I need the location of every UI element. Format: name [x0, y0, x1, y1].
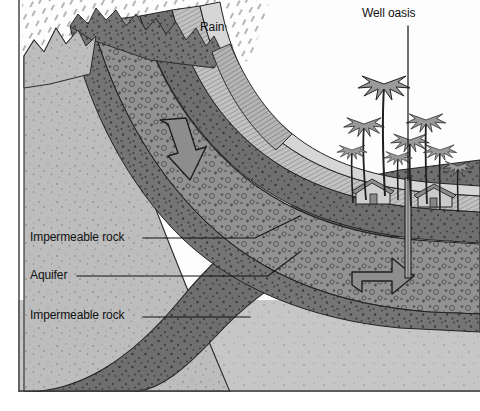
label-well-oasis: Well oasis — [362, 7, 415, 20]
aquifer-cross-section-illustration — [0, 0, 480, 411]
label-impermeable-rock-upper: Impermeable rock — [30, 231, 124, 244]
label-rain: Rain — [200, 21, 224, 34]
label-aquifer: Aquifer — [30, 269, 67, 282]
label-impermeable-rock-lower: Impermeable rock — [30, 309, 124, 322]
diagram-canvas: Rain Well oasis Impermeable rock Aquifer… — [0, 0, 480, 411]
